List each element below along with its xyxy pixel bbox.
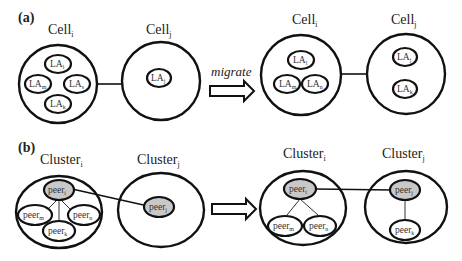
peer-node: peern bbox=[304, 216, 336, 236]
svg-text:LAj: LAj bbox=[151, 73, 166, 84]
peer-node: peerk bbox=[390, 220, 420, 240]
head-link-after bbox=[316, 189, 392, 190]
la-node: LAl bbox=[45, 55, 71, 73]
cell-i-title-after: Celli bbox=[292, 12, 318, 29]
la-node: LAl bbox=[288, 51, 314, 69]
svg-text:LAl: LAl bbox=[293, 55, 308, 66]
la-node: LAk bbox=[45, 95, 71, 113]
head-peer-node: peerj bbox=[390, 180, 420, 200]
la-node: LAj bbox=[147, 69, 171, 87]
svg-text:peeri: peeri bbox=[48, 185, 66, 196]
peer-node: peerm bbox=[18, 205, 52, 225]
cell-j-title-after: Cellj bbox=[391, 12, 417, 29]
cluster-i-title-before: Clusteri bbox=[40, 152, 83, 169]
cell-i-title-before: Celli bbox=[48, 22, 74, 39]
cell-j-title-before: Cellj bbox=[146, 22, 172, 39]
head-peer-node: peerj bbox=[144, 197, 174, 217]
migrate-arrow-icon bbox=[212, 199, 256, 219]
svg-text:LAl: LAl bbox=[50, 59, 65, 70]
la-node: LAs bbox=[64, 75, 90, 93]
peer-node: peern bbox=[68, 205, 100, 225]
cluster-i-title-after: Clusteri bbox=[283, 146, 326, 163]
la-node: LAm bbox=[25, 75, 51, 93]
la-node: LAn bbox=[302, 75, 328, 93]
svg-text:LAj: LAj bbox=[397, 52, 412, 63]
migration-diagram: (a) Celli Cellj LAl LAm LAs LAk LAj migr… bbox=[0, 0, 462, 261]
peer-node: peerm bbox=[268, 216, 302, 236]
cell-i-after bbox=[261, 35, 341, 115]
migrate-label: migrate bbox=[211, 64, 252, 79]
la-node: LAj bbox=[393, 48, 417, 66]
cluster-j-title-after: Clusterj bbox=[382, 146, 425, 163]
svg-text:peerj: peerj bbox=[149, 202, 167, 213]
head-peer-node: peeri bbox=[284, 179, 316, 199]
la-node: LAk bbox=[393, 80, 417, 98]
svg-text:peerj: peerj bbox=[395, 185, 413, 196]
la-node: LAm bbox=[274, 75, 300, 93]
migrate-arrow-icon bbox=[210, 81, 254, 101]
cell-j-after bbox=[367, 34, 445, 114]
cluster-j-title-before: Clusterj bbox=[137, 152, 180, 169]
panel-a-label: (a) bbox=[18, 10, 35, 26]
panel-b-label: (b) bbox=[18, 140, 35, 156]
svg-text:peeri: peeri bbox=[289, 184, 307, 195]
peer-node: peerk bbox=[43, 221, 75, 241]
head-peer-node: peeri bbox=[44, 180, 74, 200]
